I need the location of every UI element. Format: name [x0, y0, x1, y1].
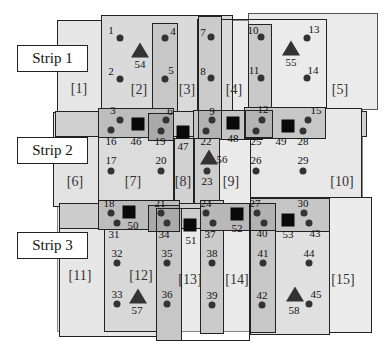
region-label: [6]: [67, 174, 83, 190]
point-marker-icon: [203, 210, 210, 217]
point-label: 31: [109, 228, 120, 240]
point-marker-icon: [306, 301, 313, 308]
point-marker-icon: [158, 128, 165, 135]
square-marker-icon: [227, 117, 240, 130]
square-marker-icon: [132, 118, 145, 131]
point-label: 39: [207, 289, 218, 301]
point-label: 25: [251, 135, 262, 147]
point-label: 5: [168, 64, 174, 76]
square-label: 46: [131, 135, 142, 147]
point-label: 27: [250, 197, 261, 209]
point-marker-icon: [117, 76, 124, 83]
point-label: 40: [257, 227, 268, 239]
point-label: 4: [170, 25, 176, 37]
point-marker-icon: [114, 301, 121, 308]
point-label: 9: [209, 105, 215, 117]
point-label: 16: [106, 135, 117, 147]
point-marker-icon: [305, 117, 312, 124]
point-marker-icon: [158, 210, 165, 217]
point-marker-icon: [306, 260, 313, 267]
region-label: [5]: [332, 82, 348, 98]
point-label: 44: [304, 247, 315, 259]
point-label: 30: [298, 197, 309, 209]
point-marker-icon: [164, 220, 171, 227]
point-label: 45: [311, 288, 322, 300]
point-label: 22: [201, 135, 212, 147]
point-label: 37: [205, 228, 216, 240]
point-label: 18: [104, 197, 115, 209]
square-label: 47: [178, 140, 189, 152]
point-marker-icon: [162, 76, 169, 83]
point-marker-icon: [204, 168, 211, 175]
point-marker-icon: [259, 302, 266, 309]
point-marker-icon: [117, 35, 124, 42]
region-label: [15]: [331, 272, 354, 288]
triangle-label: 57: [132, 304, 143, 316]
triangle-label: 58: [289, 304, 300, 316]
point-marker-icon: [163, 117, 170, 124]
point-marker-icon: [209, 260, 216, 267]
point-label: 42: [257, 289, 268, 301]
point-marker-icon: [304, 35, 311, 42]
point-marker-icon: [203, 128, 210, 135]
region-label: [12]: [129, 268, 152, 284]
point-marker-icon: [162, 35, 169, 42]
square-label: 48: [228, 132, 239, 144]
region-label: [1]: [71, 81, 87, 97]
point-marker-icon: [301, 210, 308, 217]
point-label: 24: [201, 197, 212, 209]
point-marker-icon: [260, 260, 267, 267]
point-marker-icon: [108, 127, 115, 134]
point-label: 23: [202, 175, 213, 187]
point-label: 10: [248, 24, 259, 36]
square-marker-icon: [282, 214, 295, 227]
strip-2-label: Strip 2: [17, 137, 88, 164]
triangle-marker-icon: [282, 41, 300, 56]
point-label: 32: [112, 247, 123, 259]
point-marker-icon: [108, 168, 115, 175]
strip-1-label: Strip 1: [17, 45, 88, 72]
square-label: 53: [283, 228, 294, 240]
point-label: 35: [162, 247, 173, 259]
point-label: 3: [110, 104, 116, 116]
triangle-marker-icon: [286, 287, 304, 302]
region-label: [7]: [125, 174, 141, 190]
point-label: 43: [310, 227, 321, 239]
point-label: 12: [258, 103, 269, 115]
point-label: 6: [167, 105, 173, 117]
square-label: 50: [128, 219, 139, 231]
square-label: 52: [232, 222, 243, 234]
point-label: 20: [156, 154, 167, 166]
region-label: [10]: [330, 174, 353, 190]
point-marker-icon: [261, 220, 268, 227]
point-label: 1: [108, 24, 114, 36]
region-label: [14]: [225, 272, 248, 288]
point-marker-icon: [253, 168, 260, 175]
point-label: 29: [298, 154, 309, 166]
point-marker-icon: [114, 260, 121, 267]
region-label: [9]: [223, 174, 239, 190]
square-marker-icon: [123, 206, 136, 219]
point-label: 8: [200, 65, 206, 77]
point-label: 33: [112, 288, 123, 300]
square-marker-icon: [177, 126, 190, 139]
strip-3-label: Strip 3: [17, 232, 88, 259]
point-label: 36: [162, 288, 173, 300]
square-marker-icon: [231, 208, 244, 221]
point-label: 13: [309, 23, 320, 35]
point-marker-icon: [209, 302, 216, 309]
point-label: 15: [311, 104, 322, 116]
point-marker-icon: [208, 75, 215, 82]
point-marker-icon: [209, 117, 216, 124]
triangle-marker-icon: [129, 289, 147, 304]
point-marker-icon: [258, 34, 265, 41]
point-marker-icon: [254, 210, 261, 217]
point-label: 38: [207, 247, 218, 259]
point-label: 28: [298, 135, 309, 147]
point-label: 11: [249, 64, 260, 76]
point-marker-icon: [164, 260, 171, 267]
point-marker-icon: [306, 220, 313, 227]
triangle-marker-icon: [200, 150, 218, 165]
point-marker-icon: [117, 117, 124, 124]
square-marker-icon: [282, 120, 295, 133]
